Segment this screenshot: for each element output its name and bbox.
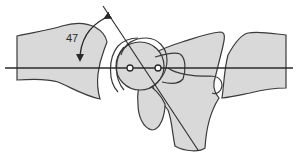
pivot-point-left	[127, 65, 133, 71]
radius-bone	[17, 23, 107, 99]
wrist-angle-diagram: 47	[0, 0, 296, 156]
angle-label: 47	[66, 32, 78, 44]
metacarpal-bone	[222, 32, 286, 98]
pivot-point-right	[155, 65, 161, 71]
